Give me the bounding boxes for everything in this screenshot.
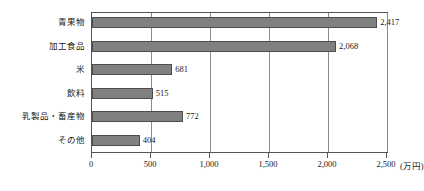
bar [92, 41, 336, 52]
bar [92, 111, 183, 122]
bar-row: 681 [92, 60, 387, 84]
bar-value-label: 772 [186, 108, 199, 125]
bar-value-label: 681 [175, 61, 188, 78]
bar [92, 88, 153, 99]
category-label: 加工食品 [49, 36, 85, 60]
category-axis-labels: 青果物 加工食品 米 飲料 乳製品・畜産物 その他 [0, 12, 88, 153]
gridline [387, 13, 388, 152]
bar [92, 17, 377, 28]
category-label: 米 [76, 59, 85, 83]
x-axis: 05001,0001,5002,0002,500 [91, 153, 388, 183]
bar-row: 2,068 [92, 37, 387, 61]
bar-row: 515 [92, 84, 387, 108]
x-tick-label: 1,500 [258, 159, 277, 169]
x-tick-mark [91, 153, 92, 158]
category-label: その他 [58, 130, 85, 154]
x-tick-label: 1,000 [199, 159, 218, 169]
x-tick-mark [327, 153, 328, 158]
category-label: 乳製品・畜産物 [22, 106, 85, 130]
x-axis-unit-label: (万円) [400, 159, 424, 171]
bar-value-label: 2,068 [339, 38, 358, 55]
bar-value-label: 515 [156, 85, 169, 102]
bar [92, 64, 172, 75]
bar-rows: 2,417 2,068 681 515 772 404 [92, 13, 387, 152]
category-label: 青果物 [58, 12, 85, 36]
plot-area: 2,417 2,068 681 515 772 404 [91, 12, 388, 153]
x-tick-label: 0 [89, 159, 93, 169]
x-tick-mark [386, 153, 387, 158]
x-tick-mark [150, 153, 151, 158]
x-tick-mark [268, 153, 269, 158]
bar-row: 404 [92, 131, 387, 155]
bar [92, 135, 140, 146]
x-tick-label: 500 [144, 159, 157, 169]
category-label: 飲料 [67, 83, 85, 107]
x-tick-mark [209, 153, 210, 158]
bar-value-label: 404 [143, 132, 156, 149]
bar-row: 772 [92, 107, 387, 131]
bar-row: 2,417 [92, 13, 387, 37]
bar-value-label: 2,417 [380, 14, 399, 31]
x-tick-label: 2,000 [317, 159, 336, 169]
x-tick-label: 2,500 [376, 159, 395, 169]
